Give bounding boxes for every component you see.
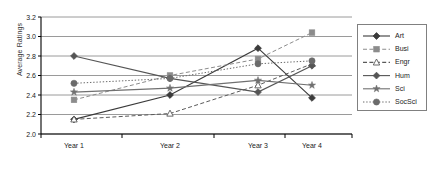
legend-item-engr[interactable]: Engr — [395, 57, 410, 67]
series-lines — [70, 30, 315, 123]
legend-item-socsci[interactable]: SocSci — [395, 97, 417, 107]
legend: ArtBusiEngrHumSciSocSci — [357, 24, 427, 111]
series-hum — [71, 53, 316, 96]
x-axis-ticks — [41, 134, 352, 138]
series-sci — [70, 77, 315, 96]
legend-item-busi[interactable]: Busi — [395, 44, 409, 54]
legend-item-sci[interactable]: Sci — [395, 84, 405, 94]
legend-item-hum[interactable]: Hum — [395, 71, 410, 81]
line-chart: Average Ratings 3.2 3.0 2.8 2.6 2.4 2.2 … — [0, 0, 430, 173]
series-art — [71, 45, 316, 123]
legend-item-art[interactable]: Art — [395, 31, 404, 41]
